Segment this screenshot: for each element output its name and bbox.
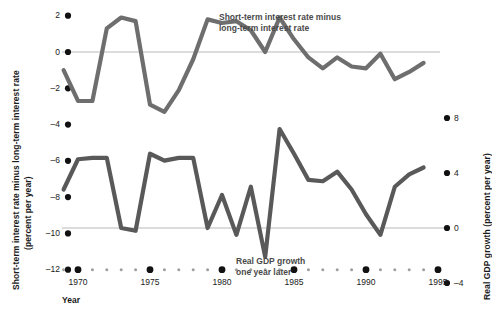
- left-axis-tick-label: –2: [34, 83, 60, 93]
- left-axis-tick-dot: [65, 13, 71, 19]
- left-axis-title-line1: Short-term interest rate minus long-term…: [11, 70, 21, 290]
- data-series-lines: [64, 18, 424, 257]
- x-axis-minor-tick-dot: [379, 268, 382, 271]
- left-axis-tick-label: 0: [34, 47, 60, 57]
- left-axis-tick-dot: [65, 267, 71, 273]
- spread-series-label: Short-term interest rate minus long-term…: [219, 12, 341, 33]
- right-axis-tick-dot: [444, 225, 450, 231]
- left-axis-title-line2: (percent per year): [23, 176, 33, 250]
- x-axis-minor-tick-dot: [134, 268, 137, 271]
- x-axis-tick-label: 1995: [421, 277, 455, 287]
- x-axis-major-tick-dot: [75, 266, 82, 273]
- x-axis-minor-tick-dot: [393, 268, 396, 271]
- x-axis-minor-tick-dot: [62, 268, 65, 271]
- x-axis-minor-tick-dot: [177, 268, 180, 271]
- series-line: [64, 129, 424, 257]
- x-axis-title: Year: [62, 295, 80, 305]
- left-axis-tick-dot: [65, 194, 71, 200]
- x-axis-tick-label: 1980: [205, 277, 239, 287]
- x-axis-minor-tick-dot: [422, 268, 425, 271]
- left-axis-tick-label: –10: [34, 228, 60, 238]
- x-axis-minor-tick-dot: [120, 268, 123, 271]
- x-axis-tick-label: 1975: [133, 277, 167, 287]
- right-axis-tick-dot: [444, 115, 450, 121]
- x-axis-minor-tick-dot: [307, 268, 310, 271]
- x-axis-minor-tick-dot: [91, 268, 94, 271]
- left-axis-tick-dot: [65, 121, 71, 127]
- left-axis-tick-dot: [65, 230, 71, 236]
- x-axis-minor-tick-dot: [350, 268, 353, 271]
- right-axis-tick-label: –4: [454, 278, 476, 288]
- right-axis-tick-dot: [444, 170, 450, 176]
- x-axis-minor-tick-dot: [206, 268, 209, 271]
- x-axis-tick-label: 1985: [277, 277, 311, 287]
- x-axis-major-tick-dot: [363, 266, 370, 273]
- gdp-series-label: Real GDP growth one year later: [236, 256, 305, 277]
- x-axis-minor-tick-dot: [163, 268, 166, 271]
- x-axis-minor-tick-dot: [105, 268, 108, 271]
- left-axis-tick-label: –12: [34, 264, 60, 274]
- spread-series-label-line1: Short-term interest rate minus: [219, 12, 341, 23]
- axis-tick-dots: [62, 13, 450, 286]
- x-axis-major-tick-dot: [435, 266, 442, 273]
- left-axis-tick-label: 2: [34, 10, 60, 20]
- x-axis-minor-tick-dot: [192, 268, 195, 271]
- left-axis-tick-label: –8: [34, 192, 60, 202]
- spread-series-label-line2: long-term interest rate: [219, 23, 341, 34]
- left-axis-tick-label: –4: [34, 119, 60, 129]
- x-axis-minor-tick-dot: [336, 268, 339, 271]
- x-axis-tick-label: 1970: [61, 277, 95, 287]
- gdp-series-label-line2: one year later: [236, 267, 305, 278]
- left-axis-tick-dot: [65, 158, 71, 164]
- left-axis-tick-label: –6: [34, 155, 60, 165]
- right-axis-tick-label: 8: [454, 113, 476, 123]
- x-axis-tick-label: 1990: [349, 277, 383, 287]
- x-axis-minor-tick-dot: [408, 268, 411, 271]
- left-axis-tick-dot: [65, 49, 71, 55]
- x-axis-major-tick-dot: [219, 266, 226, 273]
- x-axis-major-tick-dot: [147, 266, 154, 273]
- x-axis-minor-tick-dot: [321, 268, 324, 271]
- right-axis-tick-label: 4: [454, 168, 476, 178]
- gdp-series-label-line1: Real GDP growth: [236, 256, 305, 267]
- right-axis-tick-label: 0: [454, 223, 476, 233]
- right-axis-title: Real GDP growth (percent per year): [482, 153, 492, 300]
